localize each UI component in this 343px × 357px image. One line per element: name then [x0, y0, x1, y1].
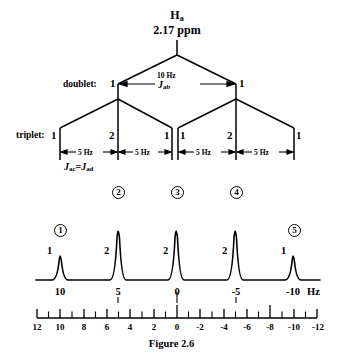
jab-symbol-label: Jab: [158, 79, 170, 90]
peak-intensity-4: 2: [222, 245, 227, 256]
spectrum-path: [36, 231, 320, 280]
ruler-tick-label-6: 0: [166, 322, 188, 332]
triplet-intensity-1: 1: [51, 129, 57, 141]
doublet-intensity-2: 1: [239, 77, 245, 89]
triplet-intensity-5: 2: [227, 129, 233, 141]
tree-branch-t1: [60, 99, 118, 128]
triplet-row-label: triplet:: [16, 130, 45, 140]
spectrum-trace: [36, 231, 320, 280]
peak-circle-1: 1: [54, 224, 67, 237]
peak-intensity-5: 1: [281, 245, 286, 256]
splitting-tree-svg: [0, 0, 343, 357]
triplet-intensity-4: 1: [180, 129, 186, 141]
peak-intensity-2: 2: [104, 245, 109, 256]
ruler-tick-label-4: 4: [119, 322, 141, 332]
spacing-label-4: 5 Hz: [254, 148, 269, 157]
figure-caption: Figure 2.6: [0, 338, 343, 349]
ruler-tick-label-8: -4: [213, 322, 235, 332]
doublet-intensity-1: 1: [110, 77, 116, 89]
doublet-row-label: doublet:: [63, 79, 97, 89]
tree-branch-t6: [236, 99, 294, 128]
peak-circle-3: 3: [171, 186, 184, 199]
ruler-tick-label-2: 8: [73, 322, 95, 332]
ruler-tick-label-1: 10: [49, 322, 71, 332]
spacing-label-1: 5 Hz: [78, 148, 93, 157]
ruler-tick-label-9: -6: [236, 322, 258, 332]
ruler-tick-label-0: 12: [26, 322, 48, 332]
peak-axis-label-5: -10: [279, 286, 307, 297]
tree-branch-t3: [118, 99, 172, 128]
triplet-intensity-6: 1: [296, 129, 302, 141]
ruler-axis: [37, 305, 317, 318]
tree-branch-doublet-right: [177, 55, 236, 84]
ruler-tick-label-10: -8: [259, 322, 281, 332]
peak-axis-label-1: 10: [48, 286, 72, 297]
jab-arrow: [120, 82, 234, 87]
triplet-intensity-2: 2: [109, 129, 115, 141]
peak-axis-label-4: -5: [224, 286, 248, 297]
spacing-label-3: 5 Hz: [196, 148, 211, 157]
peak-circle-4: 4: [230, 186, 243, 199]
tree-branch-t4: [178, 99, 236, 128]
ruler-tick-label-7: -2: [189, 322, 211, 332]
jab-subscript: ab: [163, 83, 170, 90]
peak-axis-label-3: 0: [165, 286, 189, 297]
peak-intensity-1: 1: [47, 245, 52, 256]
ruler-tick-label-12: -12: [305, 322, 331, 332]
peak-intensity-3: 2: [163, 245, 168, 256]
jad-subscript: ad: [86, 165, 93, 172]
spacing-label-2: 5 Hz: [135, 148, 150, 157]
ruler-tick-label-11: -10: [281, 322, 307, 332]
peak-axis-unit: Hz: [307, 286, 327, 297]
triplet-intensity-3: 1: [164, 129, 170, 141]
figure-container: Ha 2.17 ppm: [0, 0, 343, 357]
ruler-tick-label-5: 2: [143, 322, 165, 332]
peak-circle-5: 5: [288, 224, 301, 237]
ruler-tick-label-3: 6: [96, 322, 118, 332]
jac-jad-label: Jac=Jad: [64, 161, 93, 172]
peak-circle-2: 2: [112, 186, 125, 199]
peak-axis-label-2: 5: [106, 286, 130, 297]
